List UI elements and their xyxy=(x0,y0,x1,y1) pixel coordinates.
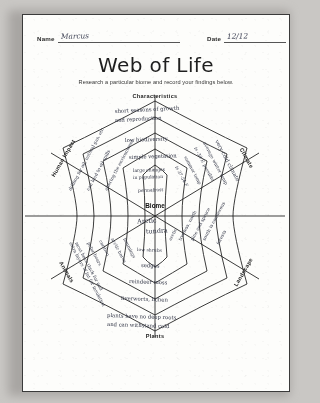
entry-text: and can withstand cold xyxy=(107,321,170,329)
name-field[interactable]: Name Marcus xyxy=(37,31,180,43)
sector-label-climate: Climate xyxy=(239,147,255,169)
entries-landscape: arctic treeless, north pine and spruce s… xyxy=(167,200,227,245)
name-handwritten-value: Marcus xyxy=(60,31,88,41)
biome-label: Biome xyxy=(145,202,165,209)
date-input-line[interactable]: 12/12 xyxy=(224,31,286,43)
name-input-line[interactable]: Marcus xyxy=(58,31,180,43)
entry-text: plants have no deep roots xyxy=(107,312,177,321)
entry-text: permafrost xyxy=(138,187,164,193)
entries-climate: very cold climate average winter temp is… xyxy=(174,138,241,188)
entry-text: altering the environment xyxy=(103,139,134,192)
entry-text: reindeer moss xyxy=(129,278,168,285)
date-field[interactable]: Date 12/12 xyxy=(207,31,286,43)
entry-text: low shrubs xyxy=(137,247,163,253)
entry-text: short seasons of growth xyxy=(115,105,180,115)
biome-value-line2: tundra xyxy=(146,226,168,235)
name-label: Name xyxy=(37,35,55,43)
page-subtitle: Research a particular biome and record y… xyxy=(23,79,289,85)
worksheet-page: Name Marcus Date 12/12 Web of Life Resea… xyxy=(22,14,290,392)
entry-text: large changes xyxy=(133,167,166,173)
sector-label-animals: Animals xyxy=(58,260,75,284)
entry-text: liverworts, lichen xyxy=(121,295,169,303)
entries-plants: low shrubs sedges reindeer moss liverwor… xyxy=(107,247,177,329)
sector-label-human-impact: Human Impact xyxy=(50,138,76,178)
biome-value-line1: Arctic xyxy=(136,216,157,225)
entry-text: extra layers of fat for insulation xyxy=(68,241,106,307)
entry-text: sedges xyxy=(141,262,160,270)
date-label: Date xyxy=(207,35,221,43)
worksheet-header: Name Marcus Date 12/12 xyxy=(37,31,277,47)
sector-label-plants: Plants xyxy=(146,333,165,339)
entry-text: simple vegetation xyxy=(129,152,178,161)
page-title: Web of Life xyxy=(23,53,289,77)
date-handwritten-value: 12/12 xyxy=(227,31,249,41)
entry-text: in population xyxy=(133,174,163,180)
web-of-life-diagram: Characteristics Climate Landscape Plants… xyxy=(22,91,290,341)
sector-label-landscape: Landscape xyxy=(233,257,254,288)
sector-label-characteristics: Characteristics xyxy=(133,93,178,99)
